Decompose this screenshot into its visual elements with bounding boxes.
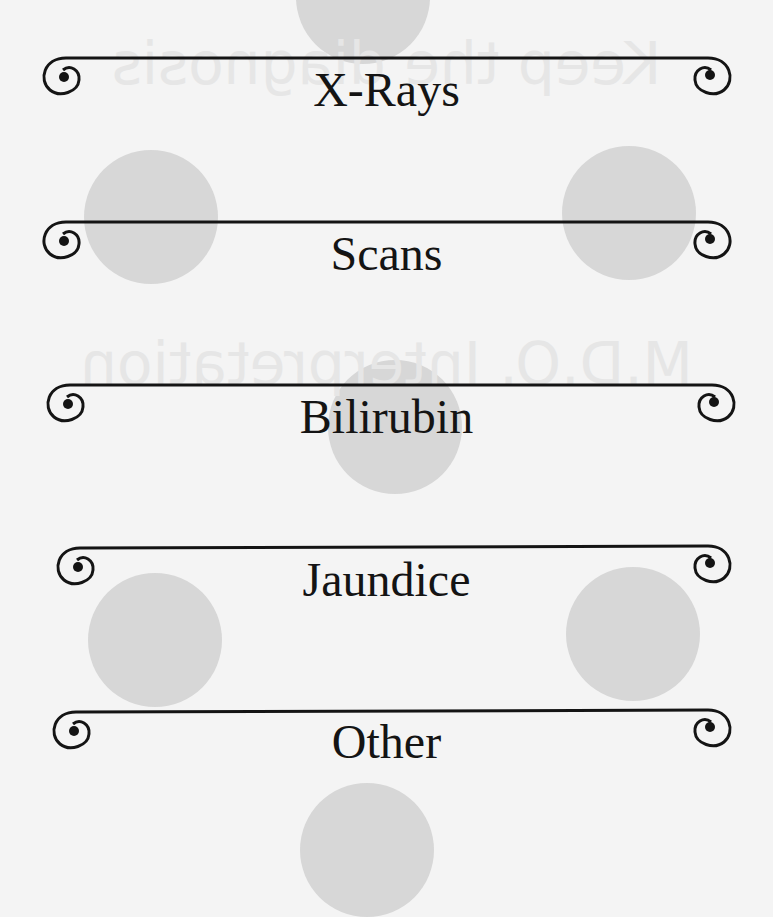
banner-jaundice[interactable]: Jaundice (0, 530, 773, 640)
banner-xrays[interactable]: X-Rays (0, 40, 773, 150)
banner-other[interactable]: Other (0, 692, 773, 802)
decorative-circle-bottom (300, 783, 434, 917)
banner-label: X-Rays (0, 60, 773, 120)
banner-label: Other (0, 712, 773, 772)
banner-bilirubin[interactable]: Bilirubin (0, 367, 773, 477)
banner-scans[interactable]: Scans (0, 204, 773, 314)
banner-label: Jaundice (0, 550, 773, 610)
banner-label: Bilirubin (0, 387, 773, 447)
banner-label: Scans (0, 224, 773, 284)
